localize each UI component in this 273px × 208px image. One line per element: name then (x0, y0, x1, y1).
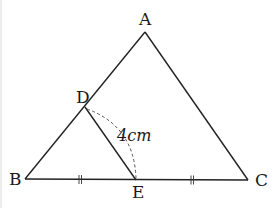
measurement-label: 4cm (116, 126, 151, 145)
triangle-diagram: A B C D E 4cm (0, 0, 273, 208)
label-c: C (255, 170, 268, 190)
label-b: B (9, 169, 22, 189)
label-d: D (76, 87, 90, 107)
label-a: A (138, 9, 152, 29)
label-e: E (132, 182, 144, 202)
segment-ac (145, 32, 248, 180)
